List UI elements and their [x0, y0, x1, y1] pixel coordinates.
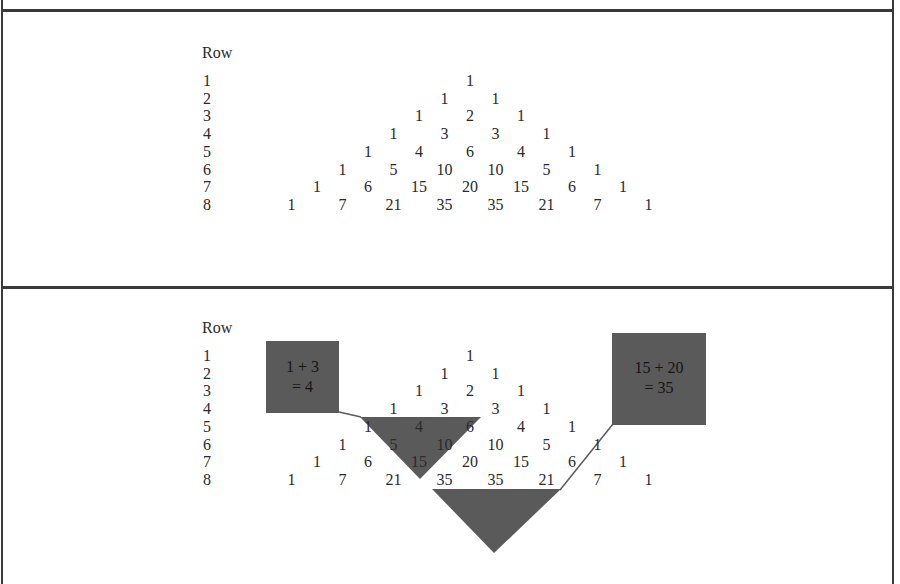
triangle-cell: 7 [594, 471, 602, 489]
triangle-cell: 6 [364, 453, 372, 471]
row-label: 3 [203, 382, 211, 400]
row-label: 7 [203, 453, 211, 471]
triangle-cell: 1 [390, 400, 398, 418]
triangle-cell: 6 [568, 453, 576, 471]
triangle-cell: 10 [488, 436, 504, 454]
triangle-cell: 1 [543, 400, 551, 418]
triangle-cell: 1 [568, 418, 576, 436]
row-label: 8 [203, 471, 211, 489]
triangle-cell: 2 [466, 382, 474, 400]
triangle-cell: 15 [513, 453, 529, 471]
callout-right-line2: = 35 [612, 378, 706, 398]
triangle-cell: 1 [415, 382, 423, 400]
highlight-triangle-row7 [432, 489, 561, 553]
connector-line-left [339, 412, 361, 417]
triangle-cell: 1 [645, 471, 653, 489]
triangle-cell: 7 [339, 471, 347, 489]
triangle-cell: 5 [390, 436, 398, 454]
row-label: 2 [203, 365, 211, 383]
triangle-cell: 35 [488, 471, 504, 489]
row-label: 4 [203, 400, 211, 418]
annotated-triangle-panel: Row 112113121413315146416151010517161520… [0, 0, 900, 584]
callout-right-line1: 15 + 20 [612, 358, 706, 378]
callout-left: 1 + 3 = 4 [266, 357, 339, 397]
callout-right: 15 + 20 = 35 [612, 358, 706, 398]
triangle-cell: 1 [313, 453, 321, 471]
callout-left-line2: = 4 [266, 377, 339, 397]
triangle-cell: 3 [441, 400, 449, 418]
triangle-cell: 1 [466, 347, 474, 365]
triangle-cell: 1 [364, 418, 372, 436]
triangle-cell: 1 [594, 436, 602, 454]
triangle-cell: 1 [339, 436, 347, 454]
triangle-cell: 1 [441, 365, 449, 383]
triangle-cell: 1 [288, 471, 296, 489]
triangle-cell: 15 [411, 453, 427, 471]
triangle-cell: 4 [415, 418, 423, 436]
row-label: 1 [203, 347, 211, 365]
highlight-overlay [0, 0, 900, 584]
callout-left-line1: 1 + 3 [266, 357, 339, 377]
row-header: Row [202, 319, 232, 337]
triangle-cell: 10 [437, 436, 453, 454]
triangle-cell: 1 [619, 453, 627, 471]
triangle-cell: 1 [492, 365, 500, 383]
triangle-cell: 20 [462, 453, 478, 471]
row-label: 5 [203, 418, 211, 436]
triangle-cell: 6 [466, 418, 474, 436]
triangle-cell: 1 [517, 382, 525, 400]
triangle-cell: 5 [543, 436, 551, 454]
row-label: 6 [203, 436, 211, 454]
triangle-cell: 4 [517, 418, 525, 436]
triangle-cell: 3 [492, 400, 500, 418]
triangle-cell: 35 [437, 471, 453, 489]
triangle-cell: 21 [539, 471, 555, 489]
triangle-cell: 21 [386, 471, 402, 489]
